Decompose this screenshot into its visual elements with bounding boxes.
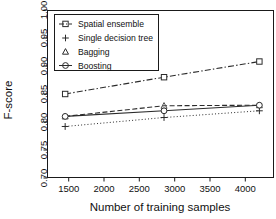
y-tick-label-5: 0.95: [38, 29, 49, 48]
legend-label-single-decision-tree: Single decision tree: [78, 33, 153, 43]
legend-label-boosting: Boosting: [78, 61, 112, 71]
circle-marker-icon: [161, 108, 167, 114]
y-tick-label-6: 1.00: [38, 1, 49, 20]
x-tick-label-5: 4000: [235, 183, 256, 194]
x-tick-label-3: 3000: [164, 183, 185, 194]
f-score-vs-training-samples-chart: 0.70 0.75 0.80 0.85 0.90 0.95 1.00 F-sco…: [0, 0, 276, 219]
circle-marker-icon: [256, 102, 262, 108]
x-tick-label-2: 2500: [129, 183, 150, 194]
legend-label-bagging: Bagging: [78, 47, 110, 57]
x-axis-title: Number of training samples: [90, 201, 231, 213]
y-tick-label-1: 0.75: [38, 141, 49, 160]
legend-label-spatial-ensemble: Spatial ensemble: [78, 19, 144, 29]
circle-marker-icon: [62, 114, 68, 120]
y-tick-label-3: 0.85: [38, 85, 49, 104]
y-tick-label-0: 0.70: [38, 169, 49, 188]
x-tick-label-4: 3500: [199, 183, 220, 194]
x-tick-label-0: 1500: [58, 183, 79, 194]
y-tick-label-2: 0.80: [38, 113, 49, 132]
y-tick-label-4: 0.90: [38, 57, 49, 76]
x-tick-label-1: 2000: [93, 183, 114, 194]
square-marker-icon: [62, 91, 67, 96]
figure-container: 0.70 0.75 0.80 0.85 0.90 0.95 1.00 F-sco…: [0, 0, 276, 219]
y-axis-title: F-score: [2, 81, 14, 120]
square-marker-icon: [257, 59, 262, 64]
square-marker-icon: [161, 75, 166, 80]
legend: Spatial ensemble Single decision tree Ba…: [55, 15, 159, 72]
